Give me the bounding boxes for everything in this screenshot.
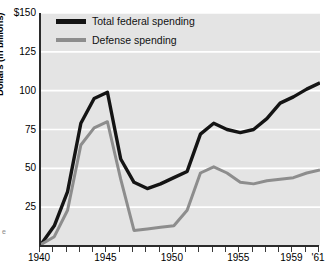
y-axis-tick-labels: $150125100755025 [0, 0, 36, 263]
legend-label: Defense spending [92, 34, 177, 46]
y-tick-label: $150 [0, 8, 36, 18]
chart-legend: Total federal spendingDefense spending [56, 14, 195, 47]
x-axis-line [39, 245, 319, 247]
x-tick-mark [278, 247, 279, 252]
series-lines [41, 83, 320, 245]
x-tick-mark [92, 247, 93, 252]
y-tick-label: 50 [0, 163, 36, 173]
x-tick-mark [52, 247, 53, 252]
x-tick-label: 1945 [94, 252, 116, 263]
plot-svg [41, 13, 320, 246]
y-tick-label: 100 [0, 86, 36, 96]
x-tick-mark [66, 247, 67, 252]
chart-figure: $150125100755025 Dollars (in billions) 1… [0, 0, 326, 263]
x-tick-label: 1950 [161, 252, 183, 263]
series-line [41, 122, 320, 245]
legend-item: Defense spending [56, 33, 195, 47]
x-tick-mark [252, 247, 253, 252]
x-tick-mark [119, 247, 120, 252]
y-tick-label: 125 [0, 47, 36, 57]
x-tick-label: 1955 [227, 252, 249, 263]
legend-swatch-icon [56, 19, 86, 24]
x-tick-mark [79, 247, 80, 252]
legend-label: Total federal spending [92, 15, 195, 27]
x-tick-mark [145, 247, 146, 252]
x-tick-mark [198, 247, 199, 252]
legend-item: Total federal spending [56, 14, 195, 28]
edge-artifact-text: e [2, 228, 6, 235]
y-tick-label: 75 [0, 125, 36, 135]
y-axis-title: Dollars (in billions) [0, 0, 5, 96]
y-tick-label: 25 [0, 202, 36, 212]
x-tick-mark [212, 247, 213, 252]
x-tick-mark [225, 247, 226, 252]
legend-swatch-icon [56, 38, 86, 42]
x-tick-mark [159, 247, 160, 252]
x-tick-label: '61 [311, 252, 324, 263]
x-tick-mark [185, 247, 186, 252]
x-tick-label: 1959 [280, 252, 302, 263]
x-tick-mark [305, 247, 306, 252]
x-tick-label: 1940 [28, 252, 50, 263]
x-tick-mark [132, 247, 133, 252]
x-tick-mark [265, 247, 266, 252]
plot-area [39, 13, 320, 246]
